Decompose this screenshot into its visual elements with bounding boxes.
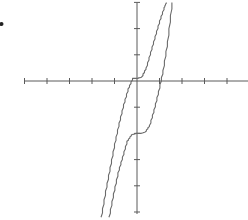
function-plot: [0, 0, 248, 220]
curves: [101, 2, 172, 217]
axes: [24, 2, 248, 214]
upper-curve: [101, 2, 166, 217]
bullet-marker: [0, 22, 4, 26]
lower-curve: [109, 2, 172, 217]
